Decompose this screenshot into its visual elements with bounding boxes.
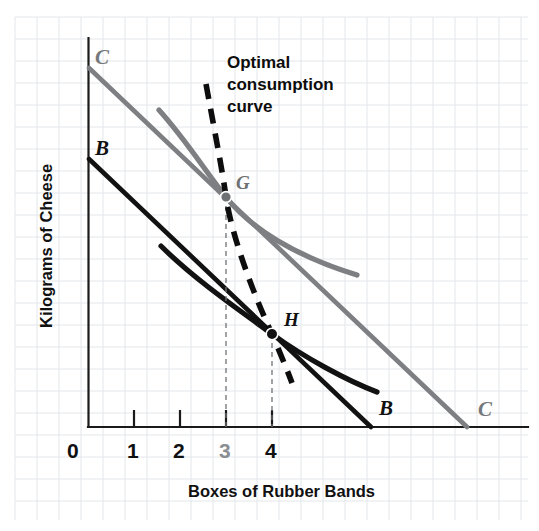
budget-line-C-start-label: C	[95, 45, 110, 69]
budget-line-B-end-label: B	[378, 396, 393, 420]
y-axis-title: Kilograms of Cheese	[37, 164, 55, 328]
annotation-line-2: consumption	[227, 75, 334, 94]
economics-indifference-curve-chart: G H C C B B Optimal consumption curve 0 …	[0, 0, 539, 531]
x-tick-label-3: 3	[219, 439, 231, 462]
point-H-dot	[266, 328, 278, 340]
point-G-label: G	[236, 172, 250, 193]
x-tick-label-2: 2	[173, 439, 185, 462]
x-tick-label-1: 1	[127, 439, 139, 462]
x-tick-label-4: 4	[265, 439, 277, 462]
point-G-dot	[221, 192, 232, 203]
annotation-line-3: curve	[227, 97, 272, 116]
chart-container: G H C C B B Optimal consumption curve 0 …	[0, 0, 539, 531]
point-H-label: H	[283, 309, 300, 330]
budget-line-C-end-label: C	[478, 397, 493, 421]
budget-line-B-start-label: B	[94, 136, 109, 160]
annotation-line-1: Optimal	[227, 53, 290, 72]
x-tick-label-0: 0	[67, 439, 79, 462]
x-axis-title: Boxes of Rubber Bands	[188, 482, 375, 500]
